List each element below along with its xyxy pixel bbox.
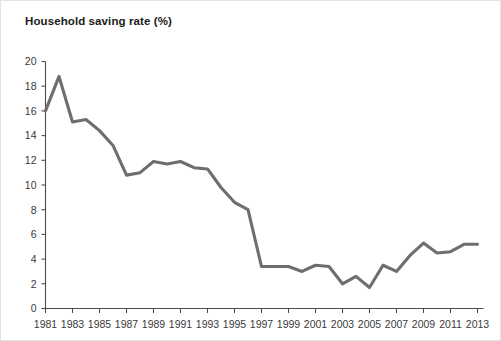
x-tick-label: 1991 <box>169 318 193 330</box>
x-tick-label: 2013 <box>466 318 490 330</box>
y-tick-label: 14 <box>25 129 37 141</box>
x-tick-label: 1997 <box>250 318 274 330</box>
x-tick-label: 2005 <box>358 318 382 330</box>
x-tick-label: 2007 <box>385 318 409 330</box>
y-axis: 02468101214161820 <box>25 55 46 314</box>
y-tick-label: 20 <box>25 55 37 67</box>
x-axis: 1981198319851987198919911993199519971999… <box>34 309 490 330</box>
x-tick-label: 2003 <box>331 318 355 330</box>
y-tick-label: 6 <box>31 228 37 240</box>
y-tick-label: 12 <box>25 154 37 166</box>
line-chart-plot: 02468101214161820 1981198319851987198919… <box>1 1 501 341</box>
x-tick-label: 2001 <box>304 318 328 330</box>
x-tick-label: 1993 <box>196 318 220 330</box>
chart-figure: Household saving rate (%) 02468101214161… <box>0 0 501 341</box>
x-tick-label: 1987 <box>115 318 139 330</box>
y-tick-label: 16 <box>25 105 37 117</box>
y-tick-label: 10 <box>25 179 37 191</box>
x-tick-label: 1981 <box>34 318 58 330</box>
x-tick-label: 2009 <box>412 318 436 330</box>
x-tick-label: 1989 <box>142 318 166 330</box>
y-tick-label: 4 <box>31 253 37 265</box>
x-tick-label: 1999 <box>277 318 301 330</box>
x-tick-label: 1985 <box>88 318 112 330</box>
y-tick-label: 2 <box>31 278 37 290</box>
data-series-group <box>46 76 478 287</box>
x-tick-label: 1995 <box>223 318 247 330</box>
x-tick-label: 1983 <box>61 318 85 330</box>
y-tick-label: 0 <box>31 302 37 314</box>
data-line-household-saving-rate <box>46 76 478 287</box>
y-tick-label: 18 <box>25 80 37 92</box>
y-tick-label: 8 <box>31 204 37 216</box>
x-tick-label: 2011 <box>439 318 462 330</box>
